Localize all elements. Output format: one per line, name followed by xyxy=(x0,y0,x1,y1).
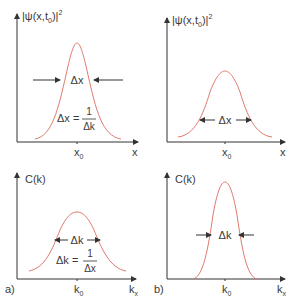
y-axis-label: C(k) xyxy=(175,173,196,185)
width-label: Δx xyxy=(219,114,232,126)
width-label: Δx xyxy=(71,74,84,86)
center-label: x0 xyxy=(74,146,84,160)
y-axis-label: |ψ(x,t0)|2 xyxy=(22,9,62,24)
panel-tag-b: b) xyxy=(154,283,164,295)
width-label: Δk xyxy=(219,229,232,241)
center-label: k0 xyxy=(222,283,232,297)
relation-numerator: 1 xyxy=(87,248,93,259)
y-axis-label: C(k) xyxy=(25,173,46,185)
y-axis-label: |ψ(x,t0)|2 xyxy=(172,13,212,28)
relation-numerator: 1 xyxy=(86,106,92,117)
relation-denominator: Δk xyxy=(83,121,96,132)
relation-denominator: Δx xyxy=(84,263,96,274)
x-axis-label: x xyxy=(132,146,138,158)
panel-b-bottom: C(k) Δk k0 kx b) xyxy=(154,173,287,297)
center-label: x0 xyxy=(222,146,232,160)
gaussian-curve-wide-low xyxy=(178,71,272,137)
x-axis-label: x xyxy=(280,146,286,158)
relation-lhs: Δk = xyxy=(56,254,78,266)
relation-lhs: Δx = xyxy=(57,112,79,124)
x-axis-label: kx xyxy=(129,283,139,297)
gaussian-curve-wide xyxy=(35,43,121,139)
wave-packet-diagram: |ψ(x,t0)|2 Δx Δx = 1 Δk x0 x |ψ(x,t0)|2 … xyxy=(0,0,295,301)
panel-a-top: |ψ(x,t0)|2 Δx Δx = 1 Δk x0 x xyxy=(17,9,138,160)
panel-b-top: |ψ(x,t0)|2 Δx x0 x xyxy=(167,13,286,160)
panel-a-bottom: C(k) Δk Δk = 1 Δx k0 kx a) xyxy=(5,173,139,297)
panel-tag-a: a) xyxy=(5,283,15,295)
x-axis-label: kx xyxy=(277,283,287,297)
center-label: k0 xyxy=(74,283,84,297)
width-label: Δk xyxy=(71,234,84,246)
